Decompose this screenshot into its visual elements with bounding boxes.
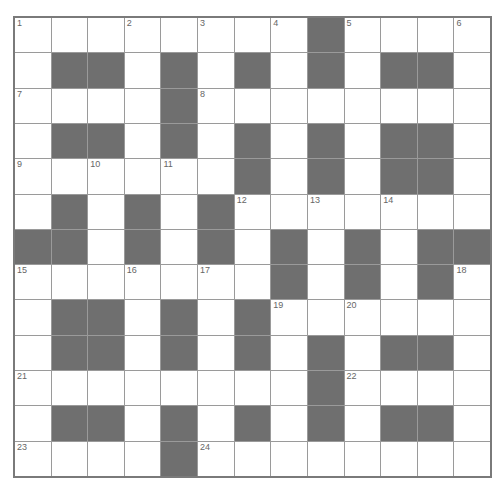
answer-cell[interactable] [88, 230, 124, 264]
answer-cell[interactable] [198, 124, 234, 158]
answer-cell[interactable]: 22 [345, 371, 381, 405]
answer-cell[interactable] [454, 124, 490, 158]
answer-cell[interactable] [308, 265, 344, 299]
answer-cell[interactable] [161, 18, 197, 52]
answer-cell[interactable] [161, 195, 197, 229]
answer-cell[interactable]: 21 [15, 371, 51, 405]
answer-cell[interactable] [271, 159, 307, 193]
answer-cell[interactable] [381, 265, 417, 299]
answer-cell[interactable] [418, 371, 454, 405]
answer-cell[interactable] [88, 18, 124, 52]
answer-cell[interactable] [125, 159, 161, 193]
answer-cell[interactable]: 5 [345, 18, 381, 52]
answer-cell[interactable] [198, 159, 234, 193]
answer-cell[interactable] [418, 442, 454, 476]
answer-cell[interactable] [345, 406, 381, 440]
answer-cell[interactable] [52, 265, 88, 299]
answer-cell[interactable] [15, 53, 51, 87]
answer-cell[interactable] [198, 371, 234, 405]
answer-cell[interactable] [454, 89, 490, 123]
answer-cell[interactable] [345, 195, 381, 229]
answer-cell[interactable] [15, 124, 51, 158]
answer-cell[interactable] [454, 406, 490, 440]
answer-cell[interactable] [52, 371, 88, 405]
answer-cell[interactable] [235, 89, 271, 123]
answer-cell[interactable] [198, 336, 234, 370]
answer-cell[interactable] [52, 18, 88, 52]
answer-cell[interactable] [271, 442, 307, 476]
answer-cell[interactable] [52, 89, 88, 123]
answer-cell[interactable] [381, 18, 417, 52]
answer-cell[interactable] [454, 336, 490, 370]
answer-cell[interactable]: 17 [198, 265, 234, 299]
answer-cell[interactable] [125, 336, 161, 370]
answer-cell[interactable] [235, 371, 271, 405]
answer-cell[interactable] [88, 265, 124, 299]
answer-cell[interactable] [308, 442, 344, 476]
answer-cell[interactable] [345, 53, 381, 87]
answer-cell[interactable] [271, 53, 307, 87]
answer-cell[interactable] [345, 124, 381, 158]
answer-cell[interactable]: 10 [88, 159, 124, 193]
answer-cell[interactable]: 15 [15, 265, 51, 299]
answer-cell[interactable]: 19 [271, 300, 307, 334]
answer-cell[interactable]: 16 [125, 265, 161, 299]
answer-cell[interactable] [271, 406, 307, 440]
answer-cell[interactable] [418, 300, 454, 334]
answer-cell[interactable] [418, 89, 454, 123]
answer-cell[interactable] [235, 265, 271, 299]
answer-cell[interactable] [454, 53, 490, 87]
answer-cell[interactable] [88, 195, 124, 229]
answer-cell[interactable] [88, 442, 124, 476]
answer-cell[interactable]: 18 [454, 265, 490, 299]
answer-cell[interactable] [125, 53, 161, 87]
answer-cell[interactable] [125, 371, 161, 405]
answer-cell[interactable] [52, 442, 88, 476]
answer-cell[interactable] [271, 89, 307, 123]
answer-cell[interactable] [161, 371, 197, 405]
answer-cell[interactable] [308, 89, 344, 123]
answer-cell[interactable] [88, 371, 124, 405]
answer-cell[interactable]: 12 [235, 195, 271, 229]
answer-cell[interactable] [308, 230, 344, 264]
answer-cell[interactable] [454, 159, 490, 193]
answer-cell[interactable] [454, 300, 490, 334]
answer-cell[interactable] [15, 300, 51, 334]
answer-cell[interactable]: 9 [15, 159, 51, 193]
answer-cell[interactable] [381, 300, 417, 334]
answer-cell[interactable] [418, 195, 454, 229]
answer-cell[interactable] [198, 300, 234, 334]
answer-cell[interactable] [418, 18, 454, 52]
answer-cell[interactable]: 14 [381, 195, 417, 229]
answer-cell[interactable]: 23 [15, 442, 51, 476]
answer-cell[interactable]: 20 [345, 300, 381, 334]
answer-cell[interactable] [345, 336, 381, 370]
answer-cell[interactable]: 8 [198, 89, 234, 123]
answer-cell[interactable]: 6 [454, 18, 490, 52]
answer-cell[interactable] [161, 230, 197, 264]
answer-cell[interactable] [454, 371, 490, 405]
answer-cell[interactable] [381, 442, 417, 476]
answer-cell[interactable] [308, 300, 344, 334]
answer-cell[interactable] [345, 159, 381, 193]
answer-cell[interactable] [125, 406, 161, 440]
answer-cell[interactable] [235, 18, 271, 52]
answer-cell[interactable]: 7 [15, 89, 51, 123]
answer-cell[interactable] [235, 230, 271, 264]
answer-cell[interactable] [381, 89, 417, 123]
answer-cell[interactable] [15, 336, 51, 370]
answer-cell[interactable] [381, 230, 417, 264]
answer-cell[interactable]: 1 [15, 18, 51, 52]
answer-cell[interactable] [15, 406, 51, 440]
answer-cell[interactable] [52, 159, 88, 193]
answer-cell[interactable] [235, 442, 271, 476]
answer-cell[interactable] [271, 195, 307, 229]
answer-cell[interactable] [161, 265, 197, 299]
answer-cell[interactable]: 4 [271, 18, 307, 52]
answer-cell[interactable] [125, 89, 161, 123]
answer-cell[interactable] [15, 195, 51, 229]
answer-cell[interactable] [271, 336, 307, 370]
answer-cell[interactable]: 24 [198, 442, 234, 476]
answer-cell[interactable] [125, 124, 161, 158]
answer-cell[interactable] [271, 124, 307, 158]
